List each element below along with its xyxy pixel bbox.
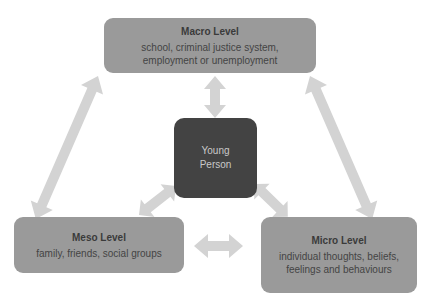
arrow-macro-center bbox=[204, 76, 226, 118]
macro-level-title: Macro Level bbox=[181, 25, 239, 38]
young-person-box: Young Person bbox=[174, 118, 257, 198]
arrow-macro-micro bbox=[299, 71, 383, 224]
micro-level-desc-line2: feelings and behaviours bbox=[286, 263, 392, 276]
arrow-macro-meso bbox=[25, 71, 109, 224]
young-person-label-line1: Young bbox=[202, 144, 230, 158]
meso-level-title: Meso Level bbox=[72, 231, 126, 244]
meso-level-desc-line1: family, friends, social groups bbox=[36, 247, 161, 260]
arrow-meso-micro bbox=[194, 234, 243, 258]
micro-level-desc-line1: individual thoughts, beliefs, bbox=[279, 250, 399, 263]
micro-level-title: Micro Level bbox=[311, 234, 366, 247]
micro-level-box: Micro Level individual thoughts, beliefs… bbox=[261, 217, 417, 293]
young-person-label-line2: Person bbox=[200, 158, 232, 172]
macro-level-desc-line1: school, criminal justice system, bbox=[141, 41, 278, 54]
meso-level-box: Meso Level family, friends, social group… bbox=[14, 217, 184, 273]
macro-level-desc-line2: employment or unemployment bbox=[143, 54, 278, 67]
macro-level-box: Macro Level school, criminal justice sys… bbox=[104, 18, 316, 73]
